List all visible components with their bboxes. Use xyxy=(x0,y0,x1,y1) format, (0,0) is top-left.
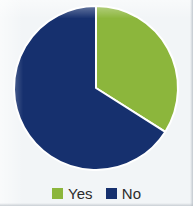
pie-chart-svg xyxy=(0,0,193,178)
pie-chart xyxy=(0,0,193,178)
legend-label-no: No xyxy=(122,186,141,201)
legend-swatch-yes-icon xyxy=(52,188,63,199)
legend-swatch-no-icon xyxy=(106,188,117,199)
legend-item-yes[interactable]: Yes xyxy=(52,186,93,201)
chart-legend: Yes No xyxy=(0,182,193,204)
legend-label-yes: Yes xyxy=(68,186,93,201)
legend-item-no[interactable]: No xyxy=(106,186,141,201)
pie-slice-group xyxy=(14,6,178,170)
